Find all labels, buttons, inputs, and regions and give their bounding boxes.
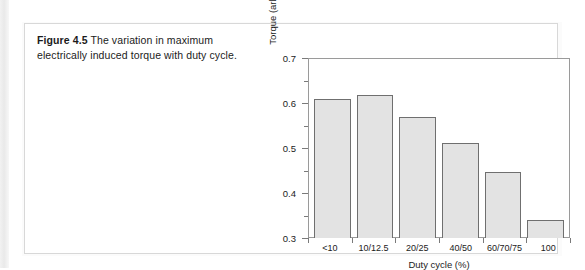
bar-chart: Torque (arbitrary units) 0.30.40.50.60.7…	[243, 26, 555, 254]
bar-slot	[396, 58, 439, 238]
bar-slot	[354, 58, 397, 238]
y-tick-label: 0.3	[248, 233, 296, 244]
x-tick	[395, 238, 396, 243]
y-tick	[302, 193, 308, 194]
y-tick-minor	[304, 216, 308, 217]
figure-container: Figure 4.5 The variation in maximum elec…	[24, 23, 558, 254]
bar-slot	[439, 58, 482, 238]
bar-slot	[482, 58, 525, 238]
bar-60-70-75	[485, 172, 522, 238]
x-tick	[308, 238, 309, 243]
y-tick-minor	[304, 126, 308, 127]
figure-caption-label: Figure 4.5	[37, 34, 88, 46]
y-tick-label: 0.6	[248, 98, 296, 109]
x-tick-label: 60/70/75	[487, 243, 522, 253]
bar-20-25	[399, 117, 436, 238]
bar-series	[308, 58, 570, 238]
x-axis-label: Duty cycle (%)	[308, 259, 570, 270]
x-tick-label: 10/12.5	[358, 243, 388, 253]
y-tick-minor	[304, 81, 308, 82]
bar-slot	[524, 58, 567, 238]
x-tick-label: <10	[322, 243, 337, 253]
y-tick	[302, 148, 308, 149]
x-tick	[526, 238, 527, 243]
y-tick	[302, 103, 308, 104]
x-tick	[352, 238, 353, 243]
y-tick-label: 0.5	[248, 143, 296, 154]
bar-10-12-5	[357, 95, 394, 238]
x-tick-label: 20/25	[406, 243, 429, 253]
figure-caption: Figure 4.5 The variation in maximum elec…	[37, 33, 237, 62]
x-tick-label: 100	[541, 243, 556, 253]
x-tick	[570, 238, 571, 243]
y-tick-label: 0.4	[248, 188, 296, 199]
bar-100	[527, 220, 564, 238]
bar-slot	[311, 58, 354, 238]
bar--10	[314, 99, 351, 238]
y-tick-minor	[304, 171, 308, 172]
x-tick	[483, 238, 484, 243]
x-tick-label: 40/50	[450, 243, 473, 253]
y-tick-label: 0.7	[248, 53, 296, 64]
bar-40-50	[442, 143, 479, 238]
x-tick	[439, 238, 440, 243]
y-tick	[302, 58, 308, 59]
page-edge-shadow	[0, 0, 9, 268]
